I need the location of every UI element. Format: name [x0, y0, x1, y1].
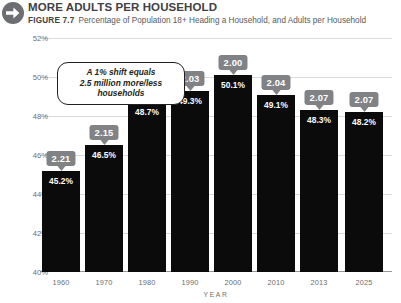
x-tick-label: 2013	[300, 278, 338, 287]
bar-value-label: 46.5%	[85, 150, 123, 160]
table-row[interactable]: 49.1%	[257, 95, 295, 272]
bar-group-2000[interactable]: 2.00 50.1%	[214, 38, 252, 272]
bar-value-label: 48.2%	[345, 117, 383, 127]
bar-chart: 52% 50% 48% 46% 44% 42% 40% PERCENT HEAD…	[0, 30, 401, 303]
x-tick-label: 2010	[257, 278, 295, 287]
x-tick-label: 2000	[214, 278, 252, 287]
arrow-right-circle-icon	[2, 2, 24, 24]
figure-caption: FIGURE 7.7Percentage of Population 18+ H…	[28, 15, 366, 26]
bar-value-label: 45.2%	[42, 176, 80, 186]
figure-caption-text: Percentage of Population 18+ Heading a H…	[79, 16, 366, 25]
table-row[interactable]: 46.5%	[85, 145, 123, 272]
x-axis-label: YEAR	[40, 291, 392, 298]
figure-number: FIGURE 7.7	[28, 16, 75, 25]
table-row[interactable]: 50.1%	[214, 75, 252, 272]
callout-box: A 1% shift equals 2.5 million more/less …	[57, 62, 185, 105]
table-row[interactable]: 48.2%	[345, 112, 383, 272]
x-tick-label: 2025	[345, 278, 383, 287]
callout-line-1: A 1% shift equals	[64, 67, 178, 78]
table-row[interactable]: 49.3%	[171, 91, 209, 272]
table-row[interactable]: 45.2%	[42, 171, 80, 272]
bar-group-2013[interactable]: 2.07 48.3%	[300, 38, 338, 272]
bar-group-2010[interactable]: 2.04 49.1%	[257, 38, 295, 272]
x-tick-label: 1980	[128, 278, 166, 287]
x-tick-label: 1990	[171, 278, 209, 287]
x-tick-label: 1970	[85, 278, 123, 287]
callout-line-3: households	[64, 88, 178, 99]
bar-group-2025[interactable]: 2.07 48.2%	[345, 38, 383, 272]
adults-badge: 2.04	[261, 75, 290, 90]
figure-container: MORE ADULTS PER HOUSEHOLD FIGURE 7.7Perc…	[0, 0, 401, 303]
x-tick-label: 1960	[42, 278, 80, 287]
bar-value-label: 49.1%	[257, 100, 295, 110]
callout-line-2: 2.5 million more/less	[64, 78, 178, 89]
table-row[interactable]: 48.3%	[300, 110, 338, 272]
adults-badge: 2.07	[349, 92, 378, 107]
bar-value-label: 50.1%	[214, 80, 252, 90]
adults-badge: 2.21	[46, 151, 75, 166]
bar-value-label: 48.7%	[128, 107, 166, 117]
table-row[interactable]: 48.7%	[128, 102, 166, 272]
adults-badge: 2.15	[89, 125, 118, 140]
figure-header: MORE ADULTS PER HOUSEHOLD FIGURE 7.7Perc…	[0, 0, 401, 30]
adults-badge: 2.07	[304, 90, 333, 105]
adults-badge: 2.00	[218, 55, 247, 70]
bar-value-label: 48.3%	[300, 115, 338, 125]
page-title: MORE ADULTS PER HOUSEHOLD	[28, 0, 217, 14]
